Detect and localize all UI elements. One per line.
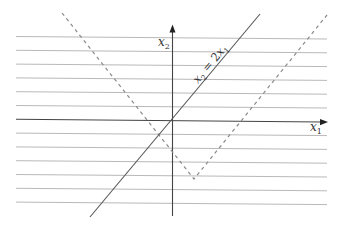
diagram-canvas: x2 x1 x2 = 2x1 — [0, 0, 344, 226]
grid-line — [16, 175, 327, 178]
grid-line — [16, 133, 327, 136]
line-equation-label: x2 = 2x1 — [190, 41, 232, 87]
grid-line — [16, 37, 327, 40]
grid-line — [16, 147, 327, 150]
x2-axis-arrowhead-icon — [170, 25, 176, 33]
grid-line — [16, 50, 327, 53]
solid-line-x2-equals-2x1 — [90, 14, 260, 217]
grid-line — [16, 161, 327, 164]
grid-line — [16, 92, 327, 95]
grid-line — [16, 106, 327, 109]
grid-line — [16, 64, 327, 67]
grid-line — [16, 202, 327, 205]
grid-line — [16, 78, 327, 81]
grid-line — [16, 188, 327, 191]
x1-axis-arrowhead-icon — [320, 119, 328, 125]
